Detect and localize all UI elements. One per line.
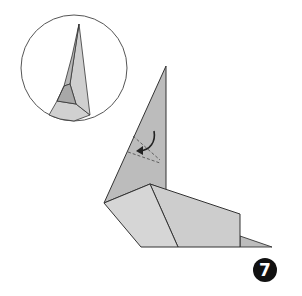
step-number-badge: 7 (253, 258, 277, 282)
tail-flap (240, 236, 272, 247)
main-model (104, 66, 272, 247)
origami-diagram (0, 0, 302, 296)
inset-detail (21, 15, 127, 121)
